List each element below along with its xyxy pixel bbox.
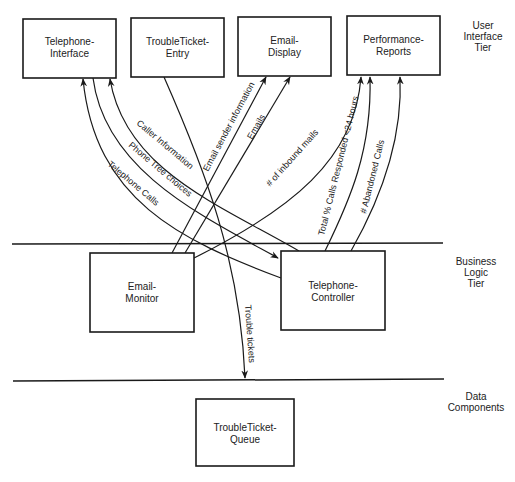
svg-text:Tier: Tier	[475, 42, 493, 53]
component-troubleticket-entry: TroubleTicket- Entry	[131, 18, 224, 77]
svg-text:Interface: Interface	[464, 31, 503, 42]
svg-text:Business: Business	[456, 256, 497, 267]
flow-telephone-calls	[83, 79, 281, 278]
flow-label-abandoned-calls: # Abandoned Calls	[358, 138, 386, 214]
tier-divider-business-data	[13, 379, 444, 381]
component-performance-reports: Performance- Reports	[347, 16, 440, 75]
tier-label-business-logic: Business Logic Tier	[456, 256, 497, 289]
flow-label-calls-responded: Total % Calls Responded <24 hours	[316, 95, 361, 237]
component-label: Performance-	[363, 34, 424, 45]
component-email-display: Email- Display	[238, 17, 331, 76]
flow-calls-responded	[325, 77, 370, 251]
component-telephone-controller: Telephone- Controller	[281, 251, 385, 330]
svg-text:User: User	[472, 20, 494, 31]
component-label: Display	[268, 47, 301, 58]
svg-text:Tier: Tier	[468, 278, 486, 289]
svg-text:Logic: Logic	[464, 267, 488, 278]
component-email-monitor: Email- Monitor	[90, 253, 194, 332]
component-label: Monitor	[125, 293, 159, 304]
component-label: Queue	[230, 434, 260, 445]
tier-label-user-interface: User Interface Tier	[464, 20, 503, 53]
flow-label-emails: Emails	[245, 112, 267, 141]
svg-text:Components: Components	[448, 402, 505, 413]
flow-label-email-sender-information: Email sender information	[201, 80, 257, 173]
component-label: Email-	[128, 281, 156, 292]
svg-text:Data: Data	[465, 391, 487, 402]
component-troubleticket-queue: TroubleTicket- Queue	[196, 399, 294, 466]
component-label: Reports	[376, 46, 411, 57]
component-label: Telephone-	[308, 280, 357, 291]
component-label: TroubleTicket-	[213, 422, 276, 433]
architecture-diagram: Telephone- Interface TroubleTicket- Entr…	[0, 0, 515, 482]
tier-label-data-components: Data Components	[448, 391, 505, 413]
component-label: TroubleTicket-	[146, 36, 209, 47]
component-label: Telephone-	[45, 36, 94, 47]
flow-label-trouble-tickets: Trouble tickets	[243, 304, 257, 363]
tier-divider-ui-business	[12, 243, 443, 244]
flow-label-caller-information: Caller Information	[135, 118, 196, 171]
component-telephone-interface: Telephone- Interface	[23, 19, 116, 78]
component-label: Interface	[50, 48, 89, 59]
component-label: Email-	[270, 35, 298, 46]
component-label: Controller	[311, 292, 355, 303]
component-label: Entry	[166, 48, 189, 59]
